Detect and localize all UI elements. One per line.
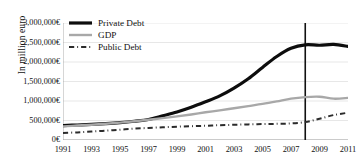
legend-item: GDP <box>68 29 198 41</box>
chart-figure: In million euro 0€500,000€1,000,000€1,50… <box>0 0 359 165</box>
legend-label: GDP <box>93 29 116 41</box>
x-tick-label: 2011 <box>331 145 359 154</box>
legend-item: Public Debt <box>68 41 198 53</box>
legend-label: Public Debt <box>93 41 142 53</box>
legend-item: Private Debt <box>68 17 198 29</box>
thick-solid-black-line-icon <box>68 17 93 29</box>
chart-legend: Private DebtGDPPublic Debt <box>68 17 198 53</box>
dash-dot-line-icon <box>68 41 93 53</box>
legend-label: Private Debt <box>93 17 144 29</box>
solid-gray-line-icon <box>68 29 93 41</box>
